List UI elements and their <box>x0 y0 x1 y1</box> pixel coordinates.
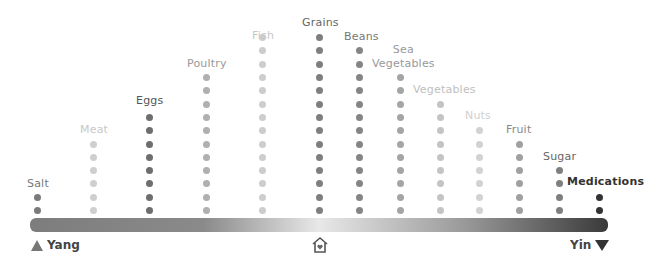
column-grains <box>299 28 339 214</box>
dot <box>476 141 483 148</box>
dot <box>146 141 153 148</box>
dot <box>437 207 444 214</box>
dot <box>316 167 323 174</box>
dot <box>259 101 266 108</box>
dot <box>316 207 323 214</box>
dot <box>203 154 210 161</box>
dot <box>356 127 363 134</box>
dot <box>596 194 603 201</box>
dot <box>356 154 363 161</box>
dot <box>259 127 266 134</box>
dot <box>146 194 153 201</box>
column-label: Vegetables <box>413 83 476 97</box>
dot <box>516 167 523 174</box>
column-vegetables <box>420 94 460 214</box>
dot <box>556 180 563 187</box>
dot <box>516 141 523 148</box>
column-eggs <box>129 108 169 214</box>
dot <box>203 180 210 187</box>
dot <box>259 47 266 54</box>
dot <box>146 127 153 134</box>
dot <box>90 141 97 148</box>
dot <box>437 114 444 121</box>
yin-text: Yin <box>570 238 591 252</box>
dot <box>90 167 97 174</box>
dot <box>356 87 363 94</box>
dot <box>356 47 363 54</box>
dot <box>34 194 41 201</box>
dot <box>316 141 323 148</box>
dot <box>259 154 266 161</box>
dot <box>316 74 323 81</box>
yin-label: Yin <box>570 238 609 252</box>
dot <box>397 101 404 108</box>
dot <box>516 154 523 161</box>
dot <box>203 167 210 174</box>
column-fish <box>242 28 282 214</box>
yang-label: Yang <box>31 238 80 252</box>
dot <box>397 180 404 187</box>
dot <box>356 180 363 187</box>
dot <box>316 180 323 187</box>
column-label: Grains <box>302 16 339 30</box>
home-heart-icon <box>310 235 330 259</box>
yang-text: Yang <box>47 238 80 252</box>
dot <box>397 167 404 174</box>
dot <box>203 127 210 134</box>
dot <box>316 114 323 121</box>
dot <box>437 154 444 161</box>
dot <box>556 167 563 174</box>
dot <box>516 194 523 201</box>
dot <box>316 194 323 201</box>
dot <box>259 194 266 201</box>
dot <box>316 87 323 94</box>
dot <box>316 47 323 54</box>
column-label: Sea Vegetables <box>372 43 435 71</box>
column-meat <box>73 134 113 214</box>
dot <box>437 141 444 148</box>
dot <box>90 194 97 201</box>
dot <box>356 101 363 108</box>
dot <box>203 87 210 94</box>
dot <box>259 87 266 94</box>
dot <box>397 114 404 121</box>
dot <box>397 87 404 94</box>
dot <box>556 207 563 214</box>
column-label: Meat <box>80 123 108 137</box>
dot <box>203 114 210 121</box>
dot <box>146 180 153 187</box>
dot <box>259 61 266 68</box>
dot <box>356 114 363 121</box>
dot <box>90 154 97 161</box>
dot <box>397 127 404 134</box>
dot <box>259 114 266 121</box>
column-poultry <box>186 68 226 214</box>
dot <box>476 194 483 201</box>
column-label: Eggs <box>136 94 163 108</box>
dot <box>316 61 323 68</box>
column-label: Fish <box>252 29 274 43</box>
dot <box>34 207 41 214</box>
column-fruit <box>499 134 539 214</box>
triangle-up-icon <box>31 240 43 251</box>
dot <box>90 207 97 214</box>
dot <box>259 141 266 148</box>
column-label: Fruit <box>506 123 531 137</box>
dot <box>356 141 363 148</box>
column-label: Poultry <box>187 57 227 71</box>
dot <box>516 207 523 214</box>
dot <box>316 154 323 161</box>
dot <box>476 167 483 174</box>
column-label: Salt <box>27 177 49 191</box>
dot <box>146 167 153 174</box>
dot <box>516 180 523 187</box>
dot <box>259 180 266 187</box>
dot <box>397 74 404 81</box>
dot <box>437 180 444 187</box>
dot <box>437 127 444 134</box>
dot <box>356 194 363 201</box>
dot <box>437 167 444 174</box>
dot <box>476 180 483 187</box>
dot <box>146 114 153 121</box>
dot <box>476 207 483 214</box>
